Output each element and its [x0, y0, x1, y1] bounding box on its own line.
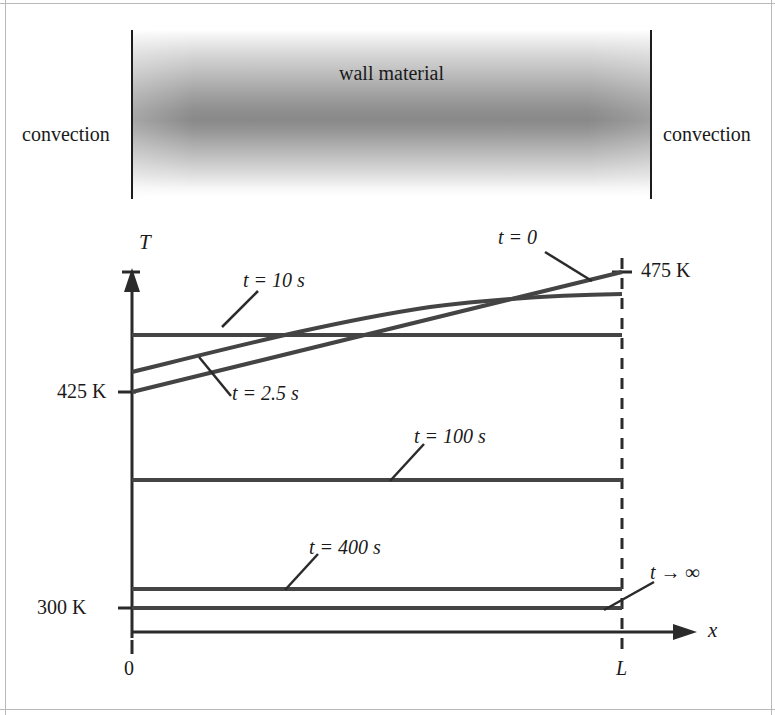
curve-label-t0: t = 0 [498, 226, 537, 249]
curve-label-t10s: t = 10 s [243, 269, 305, 292]
curve-label-t400s: t = 400 s [309, 536, 381, 559]
x-axis-arrowhead [673, 624, 697, 640]
x-axis-label: x [708, 618, 717, 643]
curve-label-t-infinity: t → ∞ [650, 561, 700, 584]
curve-label-t2-5s: t = 2.5 s [232, 382, 299, 405]
leader-line-t-infinity [604, 582, 654, 610]
leader-line-t0 [545, 252, 592, 281]
leader-line-t2-5s [199, 357, 231, 396]
y-tick-label-475k: 475 K [641, 259, 690, 282]
leader-line-t10s [222, 291, 258, 327]
x-tick-label-origin: 0 [124, 657, 134, 680]
figure-container: wall material convection convection [0, 0, 775, 715]
leader-line-t400s [285, 554, 318, 590]
y-tick-label-425k: 425 K [57, 380, 106, 403]
curve-label-t100s: t = 100 s [414, 425, 486, 448]
leader-line-t100s [390, 444, 424, 481]
curve-t0 [132, 272, 622, 392]
y-tick-label-300k: 300 K [37, 596, 86, 619]
y-axis-label: T [139, 230, 151, 255]
x-tick-label-wall-thickness: L [616, 657, 627, 680]
temperature-profile-chart [0, 0, 775, 715]
